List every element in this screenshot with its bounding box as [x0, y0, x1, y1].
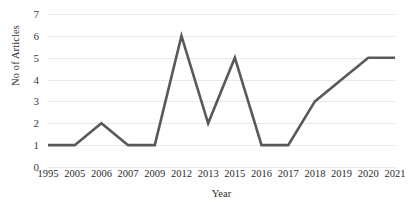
y-tick-label: 7	[34, 9, 40, 20]
x-tick-label: 1995	[38, 169, 59, 180]
x-tick-label: 2007	[118, 169, 139, 180]
x-tick-label: 2016	[251, 169, 272, 180]
x-tick-label: 2015	[224, 169, 245, 180]
y-axis-tick-labels: 01234567	[0, 0, 48, 181]
x-tick-label: 2021	[385, 169, 406, 180]
y-axis-title: No of Articles	[10, 13, 21, 99]
x-tick-label: 2018	[304, 169, 325, 180]
x-tick-label: 2005	[64, 169, 85, 180]
y-tick-label: 3	[34, 96, 40, 107]
y-tick-label: 2	[34, 118, 40, 129]
x-axis-tick-labels: 1995200520062007200920122013201520162017…	[48, 169, 395, 185]
x-axis-title: Year	[48, 189, 395, 200]
y-tick-label: 6	[34, 30, 40, 41]
x-tick-label: 2019	[331, 169, 352, 180]
x-tick-label: 2013	[198, 169, 219, 180]
plot-area	[48, 14, 395, 167]
x-tick-label: 2012	[171, 169, 192, 180]
y-tick-label: 4	[34, 74, 40, 85]
x-tick-label: 2006	[91, 169, 112, 180]
y-tick-label: 1	[34, 140, 40, 151]
line-chart: 01234567 No of Articles 1995200520062007…	[0, 0, 415, 214]
series-line-no-of-articles	[48, 14, 395, 167]
series-polyline	[48, 36, 395, 145]
y-tick-label: 5	[34, 52, 40, 63]
x-tick-label: 2009	[144, 169, 165, 180]
x-tick-label: 2020	[358, 169, 379, 180]
x-tick-label: 2017	[278, 169, 299, 180]
